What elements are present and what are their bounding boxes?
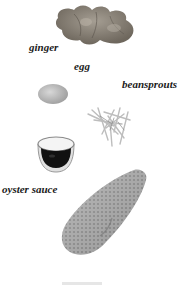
- ginger-image: [52, 2, 138, 48]
- oyster-sauce-label: oyster sauce: [2, 183, 57, 195]
- beansprouts-image: [84, 104, 136, 148]
- cropped-caption-remnant: [62, 282, 102, 285]
- egg-image: [37, 83, 69, 105]
- egg-label: egg: [74, 60, 90, 72]
- main-ingredient-image: [56, 166, 150, 258]
- beansprouts-label: beansprouts: [122, 78, 177, 90]
- ginger-label: ginger: [29, 41, 58, 53]
